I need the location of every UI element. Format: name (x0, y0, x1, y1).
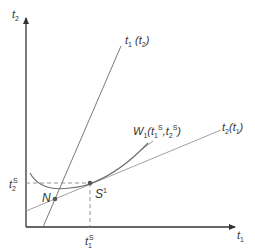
nash-point-label: N (42, 192, 51, 204)
t1s-tick-label: t1S (85, 234, 94, 249)
welfare-curve-label: W1(t1S,t2S) (133, 124, 181, 139)
t2s-tick-label: t2S (9, 177, 18, 192)
stackelberg-point-label: S1 (95, 187, 107, 200)
reaction-curve-t2-label: t2(t1) (222, 122, 243, 135)
reaction-curve-t1-label: t1 (t2) (125, 35, 149, 48)
y-axis-label: t2 (12, 9, 19, 22)
welfare-label-leader (141, 141, 153, 150)
stackelberg-point (88, 181, 93, 186)
x-axis-label: t1 (237, 230, 244, 243)
nash-point (53, 197, 58, 202)
